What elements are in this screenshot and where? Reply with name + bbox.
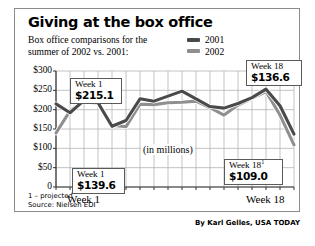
credit-line: By Karl Gelles, USA TODAY [195,219,300,227]
y-tick-label: $100 [14,142,52,152]
callout-week1-2001: Week 1 $215.1 [70,78,122,104]
callout-week18-2002: Week 181 $109.0 [224,159,283,185]
callout-value: $136.6 [251,72,297,83]
y-tick-label: $300 [14,65,52,75]
y-tick-label: $200 [14,104,52,114]
footnote-source: Source: Nielsen EDI [28,201,95,209]
y-tick-label: $150 [14,123,52,133]
callout-value: $109.0 [229,171,278,182]
callout-week-text: Week 18 [229,160,261,170]
infographic-root: Giving at the box office Box office comp… [0,0,315,246]
callout-week1-2002: Week 1 $139.6 [72,168,125,194]
callout-week18-2001: Week 18 $136.6 [246,60,302,86]
callout-footnote-marker: 1 [261,158,264,165]
x-axis-label-right: Week 18 [246,193,285,205]
callout-value: $139.6 [77,180,120,191]
y-tick-label: $50 [14,162,52,172]
y-tick-label: $250 [14,84,52,94]
units-note: (in millions) [141,144,195,155]
footnote-projected: 1 – projected [28,192,73,200]
chart-panel: Giving at the box office Box office comp… [14,8,300,212]
callout-value: $215.1 [75,90,117,101]
y-tick-label: 0 [14,181,52,191]
